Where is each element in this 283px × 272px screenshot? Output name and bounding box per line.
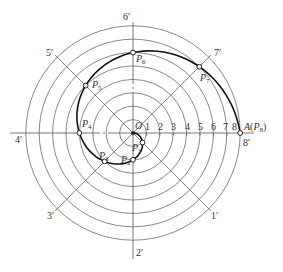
center-label: O <box>135 120 142 131</box>
diagram-svg: P1P2P3P4P5P6P7A(P8)O1′2′3′4′5′6′7′8′1234… <box>0 0 283 272</box>
tick-label-5: 5 <box>198 121 203 132</box>
tick-label-3: 3 <box>171 121 176 132</box>
point-label-5: P5 <box>91 79 102 92</box>
spiral-point-1 <box>140 140 145 145</box>
point-label-4: P4 <box>81 118 92 131</box>
spiral-point-8 <box>238 131 243 136</box>
point-label-2: P2 <box>120 154 131 167</box>
axis-label-2p: 2′ <box>136 247 143 258</box>
point-label-6: P6 <box>135 53 146 66</box>
axis-label-7p: 7′ <box>214 47 221 58</box>
axis-label-6p: 6′ <box>123 11 130 22</box>
spiral-point-6 <box>131 50 136 55</box>
tick-label-7: 7 <box>223 121 228 132</box>
spiral-point-5 <box>83 83 88 88</box>
axis-label-5p: 5′ <box>46 47 53 58</box>
spiral-point-2 <box>131 157 136 162</box>
tick-label-6: 6 <box>211 121 216 132</box>
center-point <box>131 131 135 135</box>
endpoint-label: A(P8) <box>243 121 266 134</box>
tick-label-2: 2 <box>158 121 163 132</box>
spiral-point-4 <box>77 131 82 136</box>
axis-label-8p: 8′ <box>243 137 250 148</box>
tick-label-1: 1 <box>145 121 150 132</box>
axis-label-4p: 4′ <box>15 134 22 145</box>
tick-label-4: 4 <box>185 121 190 132</box>
axis-label-3p: 3′ <box>47 210 54 221</box>
spiral-point-7 <box>197 64 202 69</box>
tick-label-8: 8 <box>232 121 237 132</box>
spiral-diagram: P1P2P3P4P5P6P7A(P8)O1′2′3′4′5′6′7′8′1234… <box>0 0 283 272</box>
axis-label-1p: 1′ <box>211 210 218 221</box>
